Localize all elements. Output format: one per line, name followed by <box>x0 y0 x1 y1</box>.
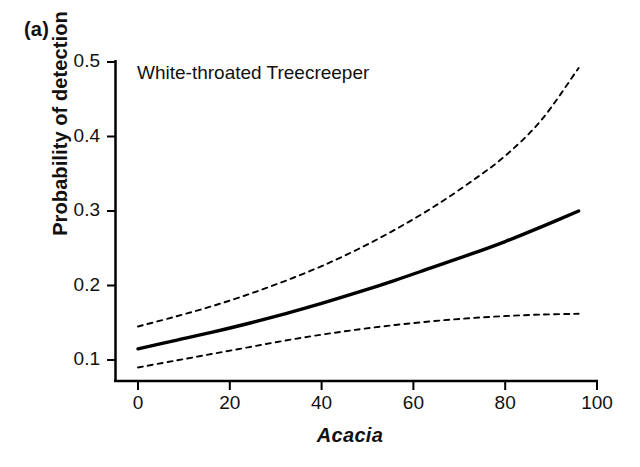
series-line <box>138 68 579 327</box>
axis-lines <box>114 60 598 382</box>
x-tick-label: 40 <box>292 392 352 414</box>
y-tick-label: 0.4 <box>48 125 100 147</box>
x-tick-label: 100 <box>567 392 627 414</box>
series-line <box>138 314 579 368</box>
y-tick-label: 0.5 <box>48 50 100 72</box>
x-tick-label: 60 <box>383 392 443 414</box>
y-tick-label: 0.3 <box>48 199 100 221</box>
y-tick-label: 0.2 <box>48 274 100 296</box>
x-axis-title: Acacia <box>115 424 585 447</box>
figure-panel: (a) Probability of detection White-throa… <box>0 0 640 467</box>
x-tick-label: 20 <box>200 392 260 414</box>
x-axis-ticks <box>138 381 597 390</box>
x-tick-label: 80 <box>475 392 535 414</box>
series-line <box>138 211 579 349</box>
y-tick-label: 0.1 <box>48 348 100 370</box>
data-series-group <box>138 68 579 367</box>
x-tick-label: 0 <box>108 392 168 414</box>
y-axis-ticks <box>107 62 115 360</box>
